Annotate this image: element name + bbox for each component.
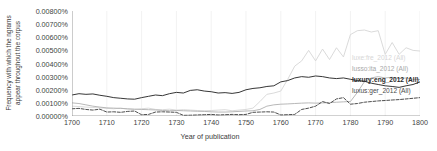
chart-legend: luxe:fre_2012 (All)lusso:ita_2012 (All)l… <box>352 52 437 96</box>
x-axis-tick-label: 1740 <box>203 118 219 127</box>
x-axis-tick-label: 1750 <box>238 118 254 127</box>
x-axis-tick-label: 1700 <box>64 118 80 127</box>
ngram-viewer-chart: Frequency with which the ngrams appear t… <box>0 0 437 151</box>
x-axis-tick-label: 1770 <box>308 118 324 127</box>
y-axis-tick-label: 0.00400% <box>14 59 68 68</box>
x-axis-tick-label: 1790 <box>377 118 393 127</box>
x-axis-tick-label: 1720 <box>134 118 150 127</box>
legend-item[interactable]: luxe:fre_2012 (All) <box>352 52 437 63</box>
legend-item[interactable]: luxus:ger_2012 (All) <box>352 85 437 96</box>
y-axis-tick-label: 0.00100% <box>14 98 68 107</box>
x-axis-title: Year of publication <box>0 132 420 141</box>
y-axis-tick-label: 0.00500% <box>14 46 68 55</box>
legend-item[interactable]: lusso:ita_2012 (All) <box>352 63 437 74</box>
x-axis-tick-labels: 1700171017201730174017501760177017801790… <box>72 118 420 130</box>
y-axis-tick-label: 0.00200% <box>14 85 68 94</box>
x-axis-tick-label: 1730 <box>168 118 184 127</box>
x-axis-tick-label: 1800 <box>412 118 428 127</box>
x-axis-tick-label: 1760 <box>273 118 289 127</box>
legend-item[interactable]: luxury:eng_2012 (All) <box>352 74 437 85</box>
y-axis-tick-label: 0.00600% <box>14 33 68 42</box>
y-axis-tick-label: 0.00000% <box>14 112 68 121</box>
y-axis-tick-label: 0.00800% <box>14 7 68 16</box>
x-axis-tick-label: 1710 <box>99 118 115 127</box>
y-axis-tick-labels: 0.00000%0.00100%0.00200%0.00300%0.00400%… <box>12 0 68 151</box>
y-axis-tick-label: 0.00300% <box>14 72 68 81</box>
y-axis-tick-label: 0.00700% <box>14 20 68 29</box>
x-axis-tick-label: 1780 <box>342 118 358 127</box>
